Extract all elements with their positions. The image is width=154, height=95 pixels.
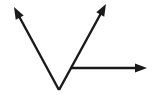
angle-diagram-svg <box>0 0 154 95</box>
diagram-canvas <box>0 0 154 95</box>
diagram-background <box>0 0 154 95</box>
